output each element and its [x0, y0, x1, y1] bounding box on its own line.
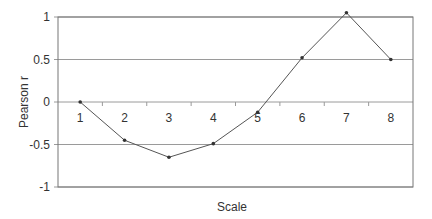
x-axis-title: Scale — [217, 200, 247, 214]
x-tick-label: 1 — [77, 111, 84, 125]
x-tick-label: 8 — [387, 111, 394, 125]
x-tick-label: 4 — [210, 111, 217, 125]
x-tick-label: 3 — [166, 111, 173, 125]
y-tick-labels: 10.50-0.5-1 — [29, 10, 50, 194]
data-point — [78, 100, 82, 104]
data-point — [212, 142, 216, 146]
line-chart: 10.50-0.5-1 12345678 Scale Pearson r — [0, 0, 432, 219]
y-axis-title: Pearson r — [17, 76, 31, 128]
x-tick-label: 7 — [343, 111, 350, 125]
data-point — [167, 155, 171, 159]
data-point — [256, 110, 260, 114]
y-tick-label: 0 — [43, 95, 50, 109]
x-tick-label: 2 — [121, 111, 128, 125]
y-tick-label: 0.5 — [33, 53, 50, 67]
y-tick-label: -1 — [39, 180, 50, 194]
data-point — [389, 58, 393, 62]
y-tick-label: -0.5 — [29, 138, 50, 152]
series — [78, 11, 392, 159]
x-tick-label: 6 — [299, 111, 306, 125]
data-point — [345, 11, 349, 15]
series-line — [80, 13, 391, 158]
data-point — [123, 138, 127, 142]
data-point — [300, 56, 304, 60]
x-tick-labels: 12345678 — [77, 111, 395, 125]
y-tick-label: 1 — [43, 10, 50, 24]
gridlines — [54, 17, 413, 187]
